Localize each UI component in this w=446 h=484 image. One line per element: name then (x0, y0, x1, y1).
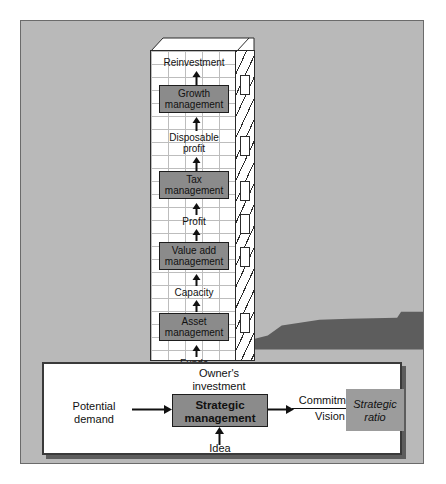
tower-window (240, 214, 250, 234)
label-line-1: Owner's (164, 367, 274, 380)
arrow-up-icon (192, 274, 201, 286)
tower-window (240, 136, 250, 156)
arrow-right-icon (268, 404, 294, 415)
label-line-2: demand (58, 413, 130, 426)
tower-box-asset-management: Asset management (159, 313, 229, 341)
tower-label-capacity: Capacity (153, 287, 235, 298)
label-line-1: Disposable (153, 132, 235, 143)
tower-box-tax-management: Tax management (159, 171, 229, 199)
tower-box-growth-management: Growth management (159, 85, 229, 113)
box-line-1: Strategic (346, 398, 404, 411)
box-line-2: management (160, 256, 228, 267)
tower-label-profit: Profit (153, 216, 235, 227)
box-line-2: management (173, 412, 267, 425)
box-line-1: Value add (160, 245, 228, 256)
tower-window (240, 75, 250, 95)
arrow-up-icon (192, 203, 201, 215)
tower-side-wall (236, 50, 255, 361)
tower-label-reinvestment: Reinvestment (153, 57, 235, 68)
value-tower: Reinvestment Growth management Disposabl… (150, 36, 255, 361)
panel-box-strategic-ratio: Strategic ratio (346, 389, 404, 431)
box-line-1: Growth (160, 88, 228, 99)
arrow-up-icon (192, 300, 201, 312)
arrow-up-icon (192, 71, 201, 85)
label-line-1: Potential (58, 400, 130, 413)
strategic-management-panel: Owner's investment Potential demand Stra… (42, 362, 402, 455)
box-line-2: ratio (346, 411, 404, 424)
panel-label-owners-investment: Owner's investment (164, 367, 274, 393)
tower-facade: Reinvestment Growth management Disposabl… (150, 50, 236, 361)
tower-window (240, 181, 250, 201)
arrow-up-icon (192, 157, 201, 171)
tower-window (240, 313, 250, 333)
tower-box-value-add-management: Value add management (159, 242, 229, 270)
arrow-up-icon (192, 117, 201, 131)
box-line-1: Tax (160, 174, 228, 185)
box-line-2: management (160, 99, 228, 110)
tower-label-disposable-profit: Disposable profit (153, 132, 235, 154)
arrow-up-icon (192, 229, 201, 241)
panel-label-potential-demand: Potential demand (58, 400, 130, 426)
box-line-2: management (160, 327, 228, 338)
panel-box-strategic-management: Strategic management (172, 394, 268, 427)
diagram-frame: Reinvestment Growth management Disposabl… (20, 20, 424, 464)
arrow-right-icon (132, 404, 172, 415)
panel-label-idea: Idea (184, 442, 256, 455)
arrow-up-icon (192, 345, 201, 357)
box-line-1: Asset (160, 316, 228, 327)
label-line-2: investment (164, 380, 274, 393)
tower-window (240, 247, 250, 267)
box-line-2: management (160, 185, 228, 196)
label-line-2: profit (153, 143, 235, 154)
box-line-1: Strategic (173, 399, 267, 412)
